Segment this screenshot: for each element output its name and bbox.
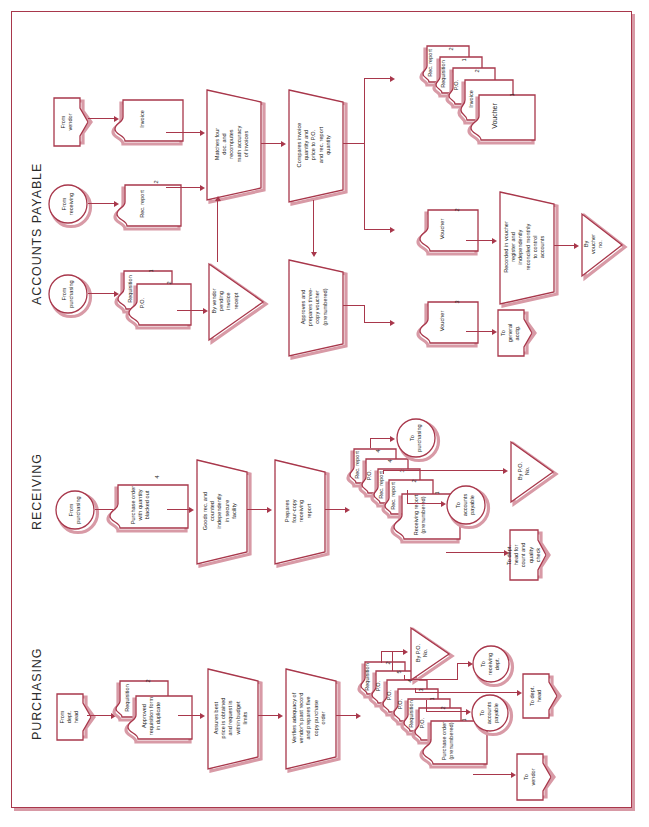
offpage-from-dept-head: Fromdept.head: [55, 692, 87, 736]
connector-to-accounts-payable-purch: Toaccountspayable: [471, 694, 509, 732]
arrow-line: [343, 143, 365, 144]
arrow-head: [356, 713, 361, 719]
copy-number: 1: [434, 491, 440, 494]
offpage-to-vendor: Tovendor: [515, 752, 547, 796]
arrow-line: [166, 187, 202, 188]
arrow-line: [87, 715, 113, 716]
arrow-line: [258, 715, 280, 716]
section-label-receiving: RECEIVING: [30, 453, 44, 530]
connector-from-purchasing-rec: Frompurchasing: [55, 490, 95, 530]
document-po-ap: P.O. 2: [131, 272, 177, 334]
arrow-line: [364, 322, 392, 323]
offpage-to-general-acctg: Togeneralacctg.: [496, 308, 528, 352]
connector-from-receiving: Fromreceiving: [48, 184, 88, 224]
arrow-line: [336, 715, 358, 716]
arrow-line: [370, 438, 371, 448]
copy-number: 2: [153, 180, 159, 183]
arrow-line: [313, 200, 314, 254]
arrow-line: [178, 715, 202, 716]
arrow-line: [343, 305, 365, 306]
arrow-line: [446, 552, 506, 553]
connector-from-purchasing-ap: Frompurchasing: [48, 274, 88, 314]
arrow-line: [88, 293, 116, 294]
document-voucher-3: Voucher 3: [420, 292, 466, 350]
file-by-voucher-no: Byvoucherno.: [578, 212, 622, 276]
arrow-line: [177, 310, 205, 311]
process-goods-received: Goods rec. andcountedindependentlyin sec…: [193, 458, 247, 562]
stack-doc-rec-5: Receiving report(prenumbered) 1: [396, 482, 446, 548]
stack-doc-ap-5: Voucher 1: [472, 84, 522, 148]
file-by-vendor-pending: By vendorpendinginvoicereceipt: [205, 262, 261, 340]
process-assures-best-price: Assures bestprice is obtainedand request…: [204, 667, 258, 767]
section-label-purchasing: PURCHASING: [30, 648, 44, 740]
arrow-line: [261, 143, 283, 144]
document-po-blacked-out: Purchase orderwith quantityblacked out 4: [119, 466, 167, 544]
arrow-head: [390, 76, 395, 82]
document-voucher-2: Voucher 2: [420, 200, 466, 258]
arrow-line: [88, 118, 116, 119]
copy-number: 2: [454, 208, 460, 211]
flowchart-page: ACCOUNTS PAYABLE RECEIVING PURCHASING Fr…: [0, 0, 649, 827]
arrow-line: [247, 509, 269, 510]
arrow-head: [215, 196, 221, 201]
arrow-head: [311, 252, 317, 257]
arrow-line: [404, 679, 458, 680]
offpage-to-dept-head-quality: To dept.head forcount andqualitycheck: [508, 528, 542, 576]
arrow-head: [390, 227, 395, 233]
arrow-line: [167, 509, 191, 510]
arrow-head: [114, 116, 119, 122]
arrow-line: [364, 78, 365, 144]
connector-to-receiving-dept: Toreceivingdept.: [472, 645, 510, 683]
process-recorded-voucher-register: Recorded in voucherregister andindepende…: [496, 190, 554, 302]
arrow-line: [364, 78, 392, 79]
process-compares-invoice: Compares invoicequantity andprice to P.O…: [285, 88, 343, 200]
process-approves-prepares: Approves andprepares three-copy voucher(…: [285, 258, 343, 354]
offpage-from-vendor: Fromvendor: [52, 96, 84, 142]
document-rec-report-ap: Rec. report 2: [120, 172, 166, 236]
copy-number: 1: [461, 718, 467, 721]
copy-number: 1: [509, 93, 515, 96]
arrow-head: [114, 201, 119, 207]
document-invoice-ap: Invoice: [120, 85, 166, 153]
arrow-line: [554, 245, 576, 246]
process-matches-four-doc: Matches fourdoc. andrecomputesmath accur…: [203, 88, 261, 198]
arrow-head: [390, 436, 395, 442]
arrow-line: [457, 663, 470, 664]
copy-number: 3: [454, 300, 460, 303]
arrow-line: [166, 132, 202, 133]
arrow-line: [466, 331, 494, 332]
arrow-line: [370, 438, 392, 439]
arrow-line: [325, 509, 347, 510]
offpage-to-dept-head-purch: To dept.head: [521, 672, 553, 714]
process-prepares-receiving-report: Preparesfour-copyreceivingreport: [271, 458, 325, 562]
connector-to-purchasing: Topurchasing: [396, 418, 436, 458]
document-approved-requisition: Approvedrequisition formin duplicate: [130, 684, 178, 748]
file-by-po-no-receiving: By P.O.No.: [507, 440, 553, 502]
process-verifies-adequacy: Verifies adequacy ofvendor's past record…: [282, 667, 336, 767]
arrow-line: [381, 651, 382, 663]
copy-number: 2: [145, 679, 151, 682]
copy-number: 4: [154, 475, 160, 478]
arrow-line: [364, 229, 392, 230]
arrow-line: [457, 663, 458, 680]
arrow-line: [364, 305, 365, 323]
arrow-line: [383, 470, 505, 471]
arrow-line: [392, 651, 393, 671]
arrow-line: [217, 200, 218, 262]
arrow-line: [407, 503, 443, 504]
arrow-line: [407, 490, 408, 504]
stack-doc-purch-7: Purchase order(prenumbered) 1: [425, 709, 473, 773]
section-label-accounts-payable: ACCOUNTS PAYABLE: [30, 163, 44, 305]
file-by-po-no-purchasing: By P.O.No.: [407, 626, 449, 680]
connector-to-accounts-payable-rec: Toaccountspayable: [446, 485, 486, 525]
arrow-line: [88, 203, 116, 204]
arrow-line: [473, 774, 513, 775]
copy-number: 2: [166, 281, 172, 284]
arrow-head: [390, 320, 395, 326]
arrow-line: [364, 143, 365, 230]
arrow-line: [426, 711, 468, 712]
arrow-line: [466, 240, 494, 241]
arrow-head: [345, 507, 350, 513]
